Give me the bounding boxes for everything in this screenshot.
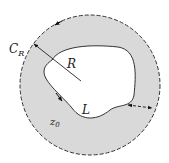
label-r: R <box>66 57 76 71</box>
diagram-canvas: CR R L z0 <box>0 0 169 163</box>
label-c-r: CR <box>9 42 24 58</box>
label-l: L <box>81 103 90 117</box>
